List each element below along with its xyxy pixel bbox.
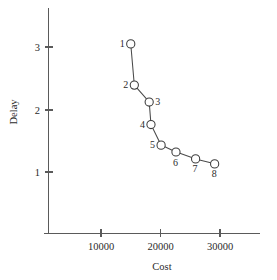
x-tick-label-20000: 20000	[147, 241, 173, 252]
data-point-labels: 12345678	[120, 38, 217, 179]
data-point-marker-1	[127, 40, 135, 48]
x-tick-label-30000: 30000	[207, 241, 233, 252]
y-tick-label-3: 3	[35, 42, 40, 53]
data-point-label-8: 8	[212, 168, 217, 179]
x-axis-tick-labels: 10000 20000 30000	[88, 241, 233, 252]
series-line-cost-delay	[131, 48, 211, 163]
data-point-label-3: 3	[155, 96, 160, 107]
data-point-label-7: 7	[193, 163, 198, 174]
data-point-markers	[127, 40, 219, 168]
data-point-marker-5	[157, 141, 165, 149]
cost-delay-scatter-line-chart: 3 2 1 10000 20000 30000 12345678 Cost De…	[0, 0, 277, 280]
data-point-marker-2	[130, 81, 138, 89]
y-tick-label-2: 2	[35, 105, 40, 116]
data-point-label-2: 2	[123, 79, 128, 90]
data-point-label-6: 6	[173, 157, 178, 168]
x-axis-title: Cost	[152, 261, 171, 272]
data-point-marker-4	[147, 120, 155, 128]
y-tick-label-1: 1	[35, 167, 40, 178]
data-point-marker-6	[172, 148, 180, 156]
y-axis-tick-labels: 3 2 1	[35, 42, 40, 178]
data-point-label-5: 5	[150, 139, 155, 150]
y-axis-title: Delay	[8, 99, 19, 125]
data-point-marker-7	[192, 155, 200, 163]
data-point-marker-8	[211, 160, 219, 168]
x-tick-label-10000: 10000	[88, 241, 114, 252]
data-point-marker-3	[145, 98, 153, 106]
chart-figure: 3 2 1 10000 20000 30000 12345678 Cost De…	[0, 0, 277, 280]
data-point-label-4: 4	[140, 119, 145, 130]
data-point-label-1: 1	[120, 38, 125, 49]
